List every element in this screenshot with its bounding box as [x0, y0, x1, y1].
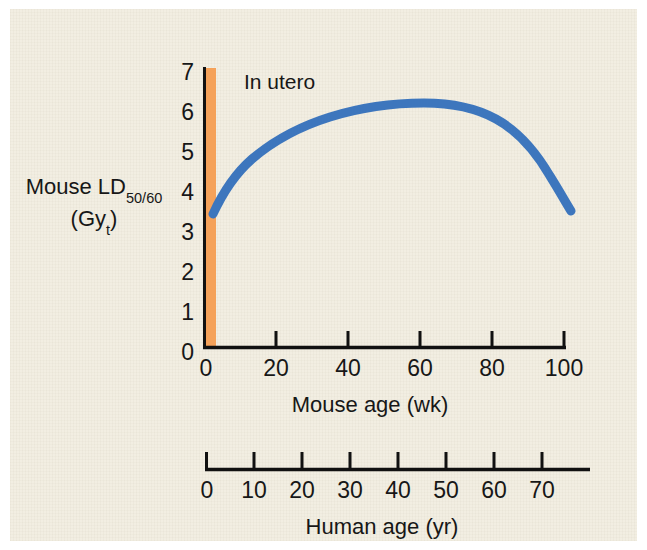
- y-axis-title-line2: (Gyt): [24, 208, 164, 230]
- y-tick-label-6: 6: [168, 101, 194, 124]
- chart-svg: [10, 9, 637, 541]
- mouse-x-tick-label-80: 80: [462, 357, 522, 380]
- human-axis-title: Human age (yr): [262, 516, 502, 538]
- y-tick-label-5: 5: [168, 141, 194, 164]
- mouse-x-tick-label-40: 40: [318, 357, 378, 380]
- y-axis-title: Mouse LD50/60: [24, 176, 164, 198]
- in-utero-label: In utero: [244, 71, 315, 92]
- y-axis-title-line1: Mouse LD50/60: [26, 174, 163, 199]
- figure-panel: 7 6 5 4 3 2 1 0 Mouse LD50/60 (Gyt) In u…: [10, 9, 637, 541]
- y-tick-label-1: 1: [168, 301, 194, 324]
- mouse-x-tick-label-60: 60: [390, 357, 450, 380]
- mouse-x-tick-label-20: 20: [246, 357, 306, 380]
- y-axis-title-sub1: 50/60: [126, 190, 162, 206]
- mouse-x-tick-label-0: 0: [176, 357, 236, 380]
- mouse-axis-title: Mouse age (wk): [250, 394, 490, 416]
- y-axis-title-sub2: t: [106, 222, 110, 238]
- y-tick-label-3: 3: [168, 221, 194, 244]
- mouse-x-tick-label-100: 100: [534, 357, 594, 380]
- ld50-curve: [213, 103, 571, 214]
- human-x-ticks: [207, 452, 543, 469]
- human-x-tick-label-70: 70: [512, 479, 572, 502]
- y-tick-label-7: 7: [168, 61, 194, 84]
- chart-area: 7 6 5 4 3 2 1 0 Mouse LD50/60 (Gyt) In u…: [10, 9, 637, 541]
- y-tick-label-2: 2: [168, 261, 194, 284]
- mouse-x-ticks: [276, 331, 564, 347]
- y-tick-label-4: 4: [168, 181, 194, 204]
